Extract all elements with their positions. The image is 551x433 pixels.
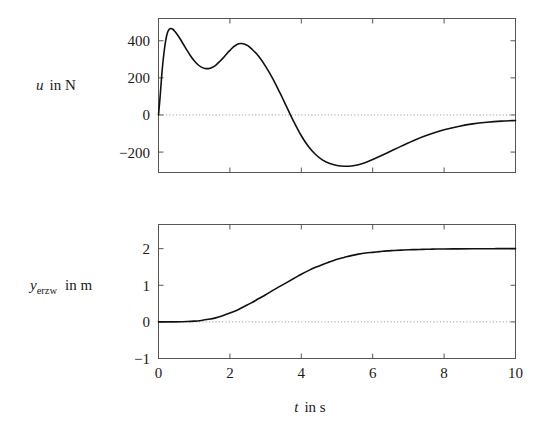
y-tick-label: 2 [143, 241, 151, 257]
y-tick-label: −200 [119, 145, 150, 161]
x-axis-unit: in s [304, 399, 325, 415]
x-tick-label: 8 [440, 365, 448, 381]
top-y-axis-symbol: u [36, 77, 44, 93]
bottom-y-axis-label: yerzwin m [28, 277, 92, 296]
chart-svg: 4002000−200 uin N 210−1 0246810 yerzwin … [0, 0, 551, 433]
x-axis-label: tin s [294, 399, 326, 415]
top-plot-frame [159, 19, 516, 173]
y-tick-label: 200 [128, 70, 151, 86]
top-y-ticklabels: 4002000−200 [119, 33, 150, 160]
bottom-plot-group: 210−1 0246810 yerzwin m tin s [28, 225, 523, 416]
y-tick-label: 1 [143, 278, 151, 294]
x-tick-label: 0 [155, 365, 163, 381]
top-y-axis-label: uin N [36, 77, 76, 93]
bottom-y-axis-unit: in m [65, 277, 92, 293]
bottom-y-axis-symbol: y [28, 277, 37, 293]
bottom-plot-frame [159, 225, 516, 359]
y-tick-label: −1 [134, 351, 150, 367]
top-plot-group: 4002000−200 uin N [36, 19, 516, 173]
y-tick-label: 400 [128, 33, 151, 49]
bottom-y-axis-subscript: erzw [37, 285, 58, 296]
x-tick-label: 10 [508, 365, 523, 381]
y-tick-label: 0 [143, 314, 151, 330]
x-axis-symbol: t [294, 399, 299, 415]
bottom-x-ticklabels: 0246810 [155, 365, 523, 381]
bottom-y-ticklabels: 210−1 [134, 241, 150, 367]
y-tick-label: 0 [143, 107, 151, 123]
x-tick-label: 2 [226, 365, 234, 381]
figure-container: 4002000−200 uin N 210−1 0246810 yerzwin … [0, 0, 551, 433]
top-y-axis-unit: in N [50, 77, 76, 93]
x-tick-label: 6 [369, 365, 377, 381]
x-tick-label: 4 [298, 365, 306, 381]
